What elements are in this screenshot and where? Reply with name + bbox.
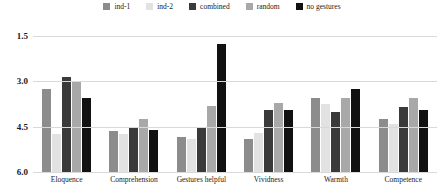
y-axis-tick-label: 1.5 — [0, 32, 28, 41]
bar[interactable] — [244, 139, 253, 172]
bar-group — [33, 36, 100, 172]
bar-group — [235, 36, 302, 172]
bar[interactable] — [129, 128, 138, 172]
x-axis-category-label: Comprehension — [100, 176, 167, 184]
legend-swatch-icon — [189, 3, 196, 10]
bar[interactable] — [52, 134, 61, 172]
legend-item-random[interactable]: random — [246, 3, 280, 11]
bar[interactable] — [177, 137, 186, 172]
legend-label: ind-2 — [157, 3, 173, 11]
bar[interactable] — [187, 139, 196, 172]
legend-item-ind-2[interactable]: ind-2 — [146, 3, 173, 11]
bar[interactable] — [254, 133, 263, 172]
y-axis-tick-label: 6.0 — [0, 168, 28, 177]
bar[interactable] — [109, 131, 118, 172]
plot-area — [33, 36, 437, 172]
bar[interactable] — [311, 98, 320, 172]
gridline — [33, 81, 437, 82]
y-axis-tick-label: 3.0 — [0, 77, 28, 86]
bar[interactable] — [274, 103, 283, 173]
bar[interactable] — [409, 98, 418, 172]
chart-legend: ind-1ind-2combinedrandomno gestures — [0, 3, 444, 11]
gridline — [33, 172, 437, 173]
gridline — [33, 127, 437, 128]
y-axis-tick-label: 4.5 — [0, 123, 28, 132]
bar[interactable] — [419, 110, 428, 172]
bar[interactable] — [321, 104, 330, 172]
bar[interactable] — [264, 110, 273, 172]
bar[interactable] — [42, 89, 51, 172]
bar[interactable] — [389, 124, 398, 172]
x-axis-category-label: Warmth — [302, 176, 369, 184]
bar[interactable] — [217, 44, 226, 172]
legend-label: no gestures — [307, 3, 341, 11]
legend-item-no-gestures[interactable]: no gestures — [296, 3, 341, 11]
grouped-bar-chart: ind-1ind-2combinedrandomno gestures Eloq… — [0, 0, 444, 195]
gridline — [33, 36, 437, 37]
legend-swatch-icon — [103, 3, 110, 10]
legend-swatch-icon — [246, 3, 253, 10]
bar-group — [100, 36, 167, 172]
bar-group — [168, 36, 235, 172]
bar[interactable] — [331, 112, 340, 172]
bar[interactable] — [119, 134, 128, 172]
bar[interactable] — [197, 127, 206, 172]
x-axis-category-label: Gestures helpful — [168, 176, 235, 184]
legend-item-ind-1[interactable]: ind-1 — [103, 3, 130, 11]
legend-item-combined[interactable]: combined — [189, 3, 230, 11]
x-axis-labels: EloquenceComprehensionGestures helpfulVi… — [33, 176, 437, 184]
legend-swatch-icon — [146, 3, 153, 10]
bar-group — [370, 36, 437, 172]
bar[interactable] — [341, 98, 350, 172]
x-axis-category-label: Eloquence — [33, 176, 100, 184]
legend-label: combined — [200, 3, 230, 11]
bar[interactable] — [207, 106, 216, 172]
bar[interactable] — [149, 130, 158, 172]
bar-groups — [33, 36, 437, 172]
bar-group — [302, 36, 369, 172]
x-axis-category-label: Vividness — [235, 176, 302, 184]
legend-swatch-icon — [296, 3, 303, 10]
bar[interactable] — [284, 110, 293, 172]
legend-label: ind-1 — [114, 3, 130, 11]
x-axis-category-label: Competence — [370, 176, 437, 184]
bar[interactable] — [351, 89, 360, 172]
legend-label: random — [257, 3, 280, 11]
bar[interactable] — [399, 107, 408, 172]
bar[interactable] — [82, 98, 91, 172]
bar[interactable] — [62, 77, 71, 172]
